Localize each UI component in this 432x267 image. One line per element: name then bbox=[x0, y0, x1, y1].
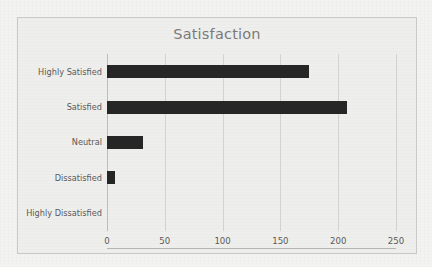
bar-neutral bbox=[107, 136, 143, 149]
screenshot-page: Satisfaction 050100150200250 Highly Sati… bbox=[0, 0, 432, 267]
chart-title: Satisfaction bbox=[18, 26, 416, 42]
x-axis-baseline bbox=[107, 248, 396, 249]
chart-frame: Satisfaction 050100150200250 Highly Sati… bbox=[17, 17, 417, 254]
x-tick-label-50: 50 bbox=[145, 236, 185, 246]
bar-highly-satisfied bbox=[107, 65, 309, 78]
chart-row: Satisfied bbox=[107, 89, 396, 124]
bar-dissatisfied bbox=[107, 171, 115, 184]
gridline-250 bbox=[396, 54, 397, 231]
chart-row: Highly Satisfied bbox=[107, 54, 396, 89]
category-label-neutral: Neutral bbox=[0, 137, 102, 147]
x-tick-label-150: 150 bbox=[260, 236, 300, 246]
category-label-satisfied: Satisfied bbox=[0, 102, 102, 112]
chart-row: Dissatisfied bbox=[107, 160, 396, 195]
category-label-highly-dissatisfied: Highly Dissatisfied bbox=[0, 208, 102, 218]
bar-satisfied bbox=[107, 101, 347, 114]
chart-row: Neutral bbox=[107, 125, 396, 160]
category-label-highly-satisfied: Highly Satisfied bbox=[0, 67, 102, 77]
category-label-dissatisfied: Dissatisfied bbox=[0, 173, 102, 183]
chart-row: Highly Dissatisfied bbox=[107, 196, 396, 231]
plot-area: Highly SatisfiedSatisfiedNeutralDissatis… bbox=[107, 54, 396, 231]
x-tick-label-0: 0 bbox=[87, 236, 127, 246]
x-tick-label-200: 200 bbox=[318, 236, 358, 246]
x-tick-label-100: 100 bbox=[203, 236, 243, 246]
x-tick-label-250: 250 bbox=[376, 236, 416, 246]
